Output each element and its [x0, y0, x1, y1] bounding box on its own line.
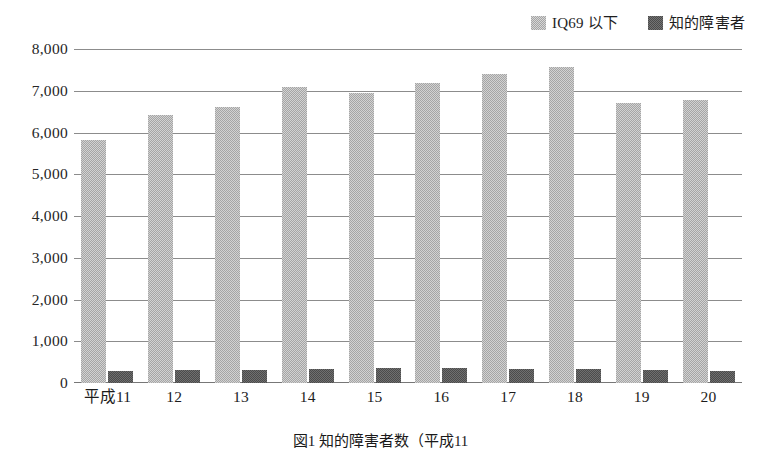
- x-tick-13: 13: [208, 386, 275, 412]
- bar[interactable]: [415, 83, 440, 383]
- bar[interactable]: [282, 87, 307, 383]
- y-axis: 8,000 7,000 6,000 5,000 4,000 3,000 2,00…: [0, 49, 68, 383]
- y-tick-8000: 8,000: [0, 41, 68, 57]
- bars-layer: [74, 49, 742, 383]
- legend-label-intellectual-disability: 知的障害者: [669, 15, 745, 31]
- light-gray-swatch-icon: [531, 16, 546, 30]
- bar[interactable]: [81, 140, 106, 383]
- x-tick-12: 12: [141, 386, 208, 412]
- x-tick-18: 18: [542, 386, 609, 412]
- bar[interactable]: [215, 107, 240, 383]
- bar-group: [341, 49, 408, 383]
- y-tick-2000: 2,000: [0, 292, 68, 308]
- bar[interactable]: [549, 67, 574, 383]
- y-tick-0: 0: [0, 375, 68, 391]
- bar[interactable]: [442, 368, 467, 383]
- legend-label-iq69: IQ69 以下: [552, 15, 618, 31]
- y-tick-4000: 4,000: [0, 208, 68, 224]
- bar-group: [141, 49, 208, 383]
- y-tick-3000: 3,000: [0, 250, 68, 266]
- y-tick-6000: 6,000: [0, 125, 68, 141]
- bar-group: [274, 49, 341, 383]
- dark-gray-swatch-icon: [648, 16, 663, 30]
- bar[interactable]: [509, 369, 534, 383]
- y-tick-1000: 1,000: [0, 333, 68, 349]
- bar[interactable]: [108, 371, 133, 383]
- bar[interactable]: [576, 369, 601, 383]
- bar-group: [74, 49, 141, 383]
- legend-entry-intellectual-disability[interactable]: 知的障害者: [648, 15, 745, 31]
- legend-entry-iq69[interactable]: IQ69 以下: [531, 15, 618, 31]
- bar[interactable]: [643, 370, 668, 383]
- bar[interactable]: [349, 93, 374, 383]
- x-axis: 平成11121314151617181920: [74, 386, 742, 412]
- bar[interactable]: [175, 370, 200, 383]
- bar-group: [208, 49, 275, 383]
- figure-caption: 図1 知的障害者数（平成11: [0, 432, 761, 450]
- bar-group: [608, 49, 675, 383]
- y-tick-5000: 5,000: [0, 166, 68, 182]
- bar[interactable]: [616, 103, 641, 383]
- x-tick-19: 19: [608, 386, 675, 412]
- x-tick-15: 15: [341, 386, 408, 412]
- bar-group: [408, 49, 475, 383]
- x-tick-平成11: 平成11: [74, 386, 141, 412]
- bar[interactable]: [376, 368, 401, 383]
- y-tick-7000: 7,000: [0, 83, 68, 99]
- bar[interactable]: [710, 371, 735, 383]
- bar-group: [675, 49, 742, 383]
- x-tick-16: 16: [408, 386, 475, 412]
- bar[interactable]: [242, 370, 267, 383]
- bar-group: [475, 49, 542, 383]
- x-tick-17: 17: [475, 386, 542, 412]
- bar-group: [542, 49, 609, 383]
- chart-legend: IQ69 以下 知的障害者: [0, 10, 761, 36]
- bar[interactable]: [683, 100, 708, 383]
- bar[interactable]: [309, 369, 334, 383]
- x-tick-20: 20: [675, 386, 742, 412]
- x-tick-14: 14: [274, 386, 341, 412]
- bar[interactable]: [148, 115, 173, 383]
- bar[interactable]: [482, 74, 507, 383]
